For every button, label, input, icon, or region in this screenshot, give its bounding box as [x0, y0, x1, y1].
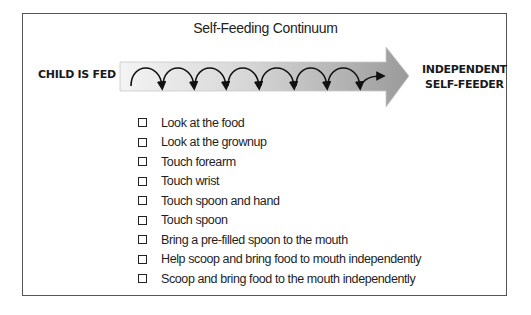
checklist-item-label: Help scoop and bring food to mouth indep… [161, 252, 421, 266]
checklist: Look at the food Look at the grownup Tou… [138, 113, 421, 289]
checklist-item: Scoop and bring food to the mouth indepe… [138, 269, 421, 289]
checklist-item-label: Look at the food [161, 116, 244, 130]
checklist-item: Touch spoon [138, 211, 421, 231]
checklist-item: Touch wrist [138, 172, 421, 192]
checklist-item: Look at the food [138, 113, 421, 133]
checklist-item-label: Touch wrist [161, 174, 219, 188]
arrow-shape [120, 47, 409, 107]
checklist-item: Touch forearm [138, 152, 421, 172]
checklist-item-label: Look at the grownup [161, 135, 267, 149]
checklist-item-label: Scoop and bring food to the mouth indepe… [161, 272, 415, 286]
checklist-item: Look at the grownup [138, 133, 421, 153]
checkbox[interactable] [138, 274, 147, 283]
checkbox[interactable] [138, 118, 147, 127]
checklist-item: Bring a pre-filled spoon to the mouth [138, 230, 421, 250]
checkbox[interactable] [138, 216, 147, 225]
checkbox[interactable] [138, 138, 147, 147]
checkbox[interactable] [138, 196, 147, 205]
checkbox[interactable] [138, 157, 147, 166]
checklist-item-label: Touch spoon [161, 213, 228, 227]
checklist-item: Touch spoon and hand [138, 191, 421, 211]
checklist-item-label: Touch spoon and hand [161, 194, 280, 208]
checklist-item-label: Touch forearm [161, 155, 236, 169]
checkbox[interactable] [138, 177, 147, 186]
checkbox[interactable] [138, 255, 147, 264]
checklist-item-label: Bring a pre-filled spoon to the mouth [161, 233, 348, 247]
checkbox[interactable] [138, 235, 147, 244]
checklist-item: Help scoop and bring food to mouth indep… [138, 250, 421, 270]
